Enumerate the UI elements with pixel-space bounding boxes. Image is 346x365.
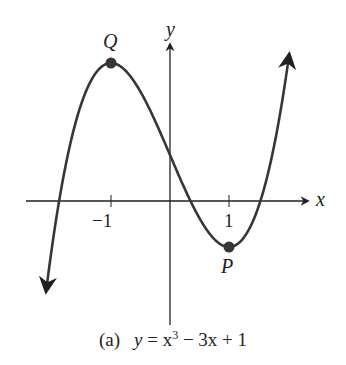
y-axis-label: y <box>166 18 175 41</box>
x-tick-label-pos1: 1 <box>224 210 234 232</box>
point-p-label: P <box>221 255 233 278</box>
point-q-local-max <box>106 58 117 69</box>
caption-tag: (a) <box>99 329 120 350</box>
point-p-local-min <box>224 242 235 253</box>
point-q-label: Q <box>103 30 117 53</box>
x-tick-label-neg1: −1 <box>92 210 112 232</box>
caption-rest: − 3x + 1 <box>178 329 247 350</box>
cubic-curve <box>46 55 289 292</box>
caption-equals-x: = x <box>142 329 172 350</box>
cubic-graph <box>0 0 346 365</box>
x-axis-label: x <box>316 188 325 211</box>
figure-caption: (a)y = x3 − 3x + 1 <box>0 328 346 351</box>
